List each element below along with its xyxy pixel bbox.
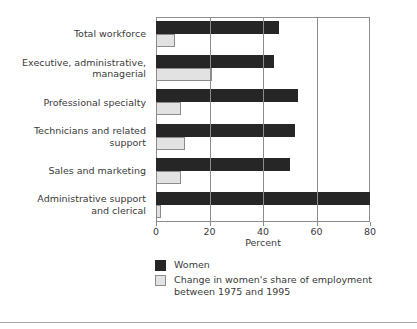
category-label: Technicians and related support	[34, 125, 146, 148]
x-tick-label: 40	[257, 226, 269, 237]
x-axis-ticks: 020406080	[156, 222, 370, 236]
bar-change	[156, 171, 181, 184]
bar-chart-figure: Total workforceExecutive, administrative…	[0, 0, 417, 329]
x-axis-title: Percent	[156, 237, 370, 248]
chart-legend: WomenChange in women's share of employme…	[155, 259, 410, 300]
bar-change	[156, 205, 161, 218]
bar-women	[156, 158, 290, 171]
legend-label: Women	[174, 259, 210, 271]
gridline-60	[317, 17, 318, 222]
x-tick-label: 0	[153, 226, 159, 237]
bar-women	[156, 124, 295, 137]
gridline-40	[263, 17, 264, 222]
category-label: Total workforce	[74, 28, 146, 40]
bar-women	[156, 55, 274, 68]
x-tick-label: 80	[364, 226, 376, 237]
category-label: Administrative support and clerical	[37, 193, 146, 216]
legend-item[interactable]: Women	[155, 259, 410, 271]
x-tick-label: 20	[203, 226, 215, 237]
bar-change	[156, 68, 212, 81]
bar-women	[156, 89, 298, 102]
legend-swatch-women-icon	[155, 260, 166, 271]
category-axis-labels: Total workforceExecutive, administrative…	[0, 17, 150, 222]
legend-swatch-change-icon	[155, 275, 166, 286]
bar-change	[156, 102, 181, 115]
category-label: Sales and marketing	[48, 165, 146, 177]
legend-item[interactable]: Change in women's share of employment be…	[155, 274, 410, 297]
plot-area	[156, 17, 370, 222]
category-label: Executive, administrative, managerial	[22, 57, 146, 80]
legend-label: Change in women's share of employment be…	[174, 274, 372, 297]
bar-women	[156, 21, 279, 34]
x-tick-label: 60	[310, 226, 322, 237]
bar-change	[156, 34, 175, 47]
bar-change	[156, 137, 185, 150]
category-label: Professional specialty	[43, 97, 146, 109]
gridline-20	[210, 17, 211, 222]
bottom-divider	[0, 322, 417, 323]
